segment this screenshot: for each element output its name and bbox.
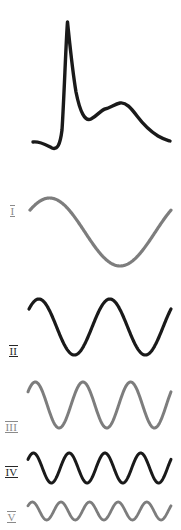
harmonic-band-4 bbox=[0, 444, 181, 492]
harmonic-label-2: II bbox=[9, 342, 18, 358]
harmonic-label-5: V bbox=[7, 508, 16, 524]
harmonic-band-1 bbox=[0, 178, 181, 286]
composite-waveform-trace bbox=[33, 22, 170, 148]
harmonic-4-trace bbox=[28, 453, 171, 483]
harmonic-1-svg bbox=[0, 178, 181, 286]
harmonic-label-3: III bbox=[5, 418, 18, 434]
harmonic-label-4: IV bbox=[5, 463, 18, 479]
harmonic-label-text: I bbox=[10, 205, 15, 217]
harmonic-label-1: I bbox=[10, 202, 15, 218]
composite-waveform-band bbox=[0, 0, 181, 178]
composite-waveform-svg bbox=[0, 0, 181, 178]
harmonic-label-text: IV bbox=[5, 466, 18, 478]
harmonic-label-text: II bbox=[9, 345, 18, 357]
harmonic-2-trace bbox=[29, 299, 171, 355]
harmonic-band-2 bbox=[0, 286, 181, 368]
harmonic-label-text: V bbox=[7, 511, 16, 523]
harmonic-decomposition-figure: IIIIIIIVV bbox=[0, 0, 181, 530]
harmonic-band-3 bbox=[0, 372, 181, 438]
harmonic-label-text: III bbox=[5, 421, 18, 433]
harmonic-5-trace bbox=[28, 502, 171, 520]
harmonic-band-5 bbox=[0, 492, 181, 530]
harmonic-1-trace bbox=[30, 198, 171, 266]
harmonic-2-svg bbox=[0, 286, 181, 368]
harmonic-3-trace bbox=[28, 382, 171, 428]
harmonic-5-svg bbox=[0, 492, 181, 530]
harmonic-4-svg bbox=[0, 444, 181, 492]
harmonic-3-svg bbox=[0, 372, 181, 438]
